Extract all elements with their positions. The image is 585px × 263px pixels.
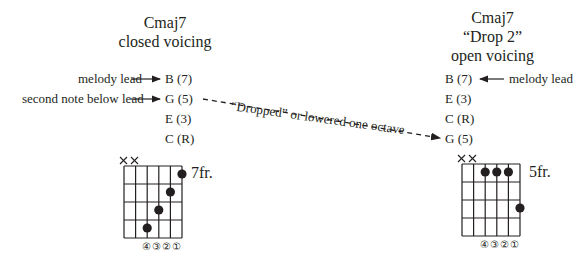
left-dot-string4 <box>143 223 152 232</box>
left-chord-diagram <box>120 157 187 238</box>
left-muted-string-icons <box>120 157 138 164</box>
diagram-graphics <box>0 0 585 263</box>
right-finger-dots <box>481 167 525 212</box>
right-dot-string3 <box>492 167 501 176</box>
right-muted-string-icons <box>458 155 476 162</box>
right-dot-string2 <box>504 167 513 176</box>
right-chord-diagram <box>458 155 525 236</box>
drop-connector-arrow-icon <box>203 99 440 138</box>
left-dot-string3 <box>154 205 163 214</box>
left-dot-string2 <box>166 187 175 196</box>
right-dot-string1 <box>515 203 524 212</box>
right-dot-string4 <box>481 167 490 176</box>
left-finger-dots <box>143 169 187 232</box>
left-dot-string1 <box>177 169 186 178</box>
